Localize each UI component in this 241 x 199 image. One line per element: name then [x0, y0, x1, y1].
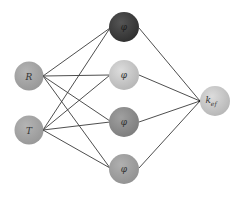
output-node-kef: kef [200, 86, 230, 116]
hidden-node-2-label: φ [121, 70, 128, 80]
neural-network-diagram: R T φ φ φ φ kef [0, 0, 241, 199]
hidden-node-3: φ [109, 107, 139, 137]
hidden-node-4-label: φ [121, 164, 128, 174]
edges-hidden-output [139, 28, 200, 168]
hidden-node-2: φ [109, 60, 139, 90]
input-node-r: R [15, 62, 44, 91]
hidden-node-1-label: φ [121, 22, 128, 32]
hidden-node-4: φ [109, 154, 139, 184]
input-node-r-label: R [25, 72, 33, 82]
hidden-node-3-label: φ [121, 117, 128, 127]
edges-input-hidden [43, 28, 110, 168]
hidden-node-1: φ [109, 12, 139, 42]
input-node-t: T [15, 116, 44, 145]
input-node-t-label: T [26, 126, 33, 136]
